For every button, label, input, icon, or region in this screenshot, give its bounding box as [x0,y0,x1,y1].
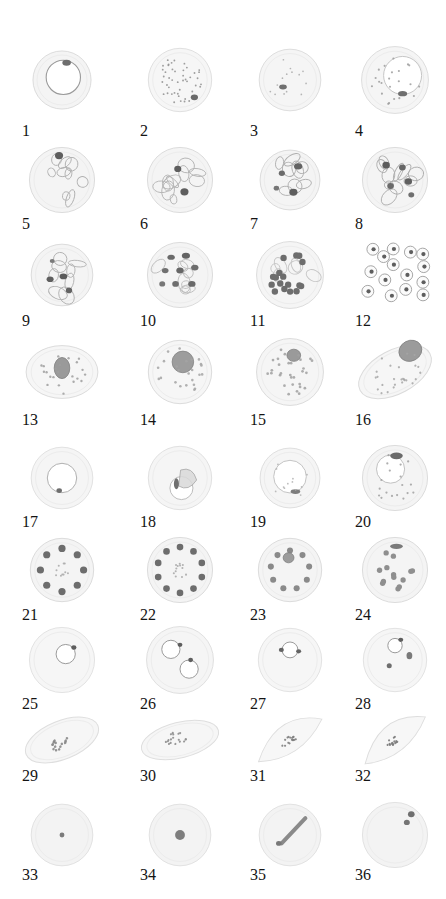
figure-18 [144,442,216,514]
specimen-2 [144,44,216,116]
figure-label-10: 10 [140,312,220,330]
figure-3 [255,45,325,115]
figure-27 [254,624,326,696]
figure-label-18: 18 [140,513,220,531]
figure-label-31: 31 [250,767,330,785]
specimen-35 [255,800,325,870]
specimen-18 [144,442,216,514]
figure-29 [20,711,104,769]
specimen-4 [357,42,433,118]
figure-10 [143,238,217,312]
figure-label-2: 2 [140,122,220,140]
figure-label-29: 29 [22,767,102,785]
specimen-5 [25,143,99,217]
figure-33 [27,800,97,870]
specimen-3 [255,45,325,115]
specimen-34 [145,800,215,870]
figure-label-9: 9 [22,312,102,330]
figure-label-14: 14 [140,411,220,429]
figure-label-32: 32 [355,767,435,785]
specimen-15 [252,334,328,410]
specimen-32 [352,716,438,764]
specimen-1 [29,47,95,113]
specimen-14 [144,336,216,408]
figure-23 [254,534,326,606]
specimen-20 [358,441,432,515]
specimen-29 [20,711,104,769]
specimen-6 [143,143,217,217]
specimen-36 [358,798,432,872]
figure-31 [247,716,333,764]
figure-label-19: 19 [250,513,330,531]
specimen-10 [143,238,217,312]
figure-22 [143,533,217,607]
figure-1 [29,47,95,113]
specimen-27 [254,624,326,696]
specimen-17 [27,443,97,513]
specimen-26 [142,622,218,698]
specimen-30 [137,713,223,767]
figure-label-8: 8 [355,215,435,233]
specimen-9 [27,240,97,310]
figure-34 [145,800,215,870]
figure-label-23: 23 [250,606,330,624]
figure-8 [358,143,432,217]
figure-17 [27,443,97,513]
figure-label-5: 5 [22,215,102,233]
specimen-19 [256,444,324,512]
figure-21 [26,534,98,606]
figure-30 [137,713,223,767]
figure-label-27: 27 [250,695,330,713]
figure-9 [27,240,97,310]
figure-label-26: 26 [140,695,220,713]
figure-7 [256,146,324,214]
figure-35 [255,800,325,870]
specimen-16 [353,340,437,404]
specimen-8 [358,143,432,217]
figure-19 [256,444,324,512]
figure-20 [358,441,432,515]
figure-label-33: 33 [22,866,102,884]
specimen-11 [252,237,328,313]
specimen-25 [25,623,99,697]
figure-label-34: 34 [140,866,220,884]
specimen-7 [256,146,324,214]
figure-36 [358,798,432,872]
specimen-22 [143,533,217,607]
figure-label-16: 16 [355,411,435,429]
figure-2 [144,44,216,116]
figure-label-4: 4 [355,122,435,140]
figure-4 [357,42,433,118]
figure-label-35: 35 [250,866,330,884]
specimen-21 [26,534,98,606]
figure-15 [252,334,328,410]
illustration-plate: 1234567891011121314151617181920212223242… [0,0,446,899]
figure-label-3: 3 [250,122,330,140]
figure-label-28: 28 [355,695,435,713]
figure-14 [144,336,216,408]
specimen-13 [23,339,101,405]
figure-16 [353,340,437,404]
figure-5 [25,143,99,217]
figure-label-15: 15 [250,411,330,429]
figure-26 [142,622,218,698]
figure-label-30: 30 [140,767,220,785]
specimen-24 [358,533,432,607]
figure-6 [143,143,217,217]
figure-label-13: 13 [22,411,102,429]
figure-32 [352,716,438,764]
figure-11 [252,237,328,313]
figure-label-12: 12 [355,312,435,330]
figure-label-24: 24 [355,606,435,624]
specimen-12 [356,240,434,310]
specimen-33 [27,800,97,870]
figure-25 [25,623,99,697]
figure-label-36: 36 [355,866,435,884]
figure-28 [359,624,431,696]
figure-13 [23,339,101,405]
specimen-31 [247,716,333,764]
figure-label-11: 11 [250,312,330,330]
figure-label-17: 17 [22,513,102,531]
specimen-23 [254,534,326,606]
figure-label-20: 20 [355,513,435,531]
